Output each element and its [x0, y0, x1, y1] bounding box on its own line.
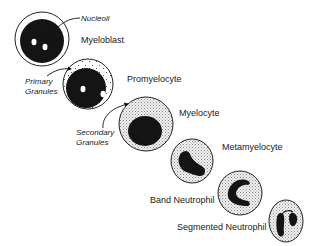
maturation-diagram: Myeloblast Promyelocyte Myelocyte Metamy… [0, 0, 319, 246]
annotation-secondary-granules-line2: Granules [76, 138, 108, 148]
cell-segmented-neutrophil [269, 200, 303, 242]
label-myelocyte: Myelocyte [179, 108, 220, 118]
cell-myeloblast [15, 12, 69, 66]
cell-band-neutrophil [218, 171, 262, 215]
label-myeloblast: Myeloblast [81, 35, 124, 45]
cell-myelocyte [119, 97, 173, 151]
cell-metamyelocyte [171, 139, 213, 183]
label-segmented-neutrophil: Segmented Neutrophil [177, 222, 267, 232]
annotation-secondary-granules-line1: Secondary [76, 128, 114, 138]
annotation-nucleoli: Nucleoli [81, 14, 109, 24]
label-metamyelocyte: Metamyelocyte [222, 142, 283, 152]
cell-promyelocyte [63, 59, 113, 109]
label-promyelocyte: Promyelocyte [127, 74, 182, 84]
annotation-primary-granules-line1: Primary [25, 77, 53, 87]
annotation-primary-granules-line2: Granules [25, 87, 57, 97]
label-band-neutrophil: Band Neutrophil [150, 195, 215, 205]
